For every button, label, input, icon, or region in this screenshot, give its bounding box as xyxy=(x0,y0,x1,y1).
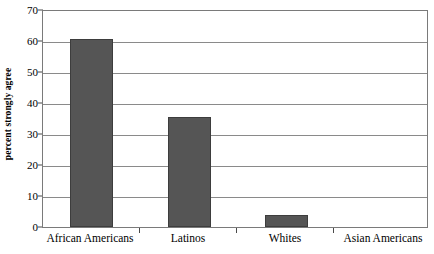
y-tick-label: 20 xyxy=(16,160,38,171)
bar-latinos xyxy=(168,117,211,227)
y-tick-label: 10 xyxy=(16,191,38,202)
y-axis-title-text: percent strongly agree xyxy=(3,68,13,160)
x-label-asian-americans: Asian Americans xyxy=(344,232,423,245)
y-tick-label: 0 xyxy=(16,222,38,233)
y-axis-title: percent strongly agree xyxy=(0,0,16,228)
y-tick-label: 50 xyxy=(16,67,38,78)
plot-area xyxy=(42,10,428,228)
y-tick-label: 40 xyxy=(16,98,38,109)
bar-african-americans xyxy=(70,39,113,227)
y-tick-label: 30 xyxy=(16,129,38,140)
x-label-african-americans: African Americans xyxy=(46,232,133,245)
x-label-latinos: Latinos xyxy=(171,232,206,245)
bar-whites xyxy=(265,215,308,227)
y-tick-label: 70 xyxy=(16,5,38,16)
bar-chart-figure: percent strongly agree 70 60 50 40 30 20… xyxy=(0,0,434,254)
x-label-whites: Whites xyxy=(269,232,302,245)
y-axis-tick-labels: 70 60 50 40 30 20 10 0 xyxy=(16,0,38,254)
x-axis-category-labels: African Americans Latinos Whites Asian A… xyxy=(42,232,428,252)
y-tick-label: 60 xyxy=(16,36,38,47)
